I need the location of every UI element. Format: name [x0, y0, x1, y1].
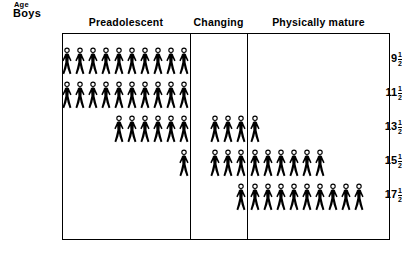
person-figure-icon: [222, 149, 234, 177]
person-figure-icon: [165, 115, 177, 143]
fraction-numerator: 1: [398, 85, 402, 93]
person-figure-icon: [314, 149, 326, 177]
pictogram-row: [63, 113, 391, 143]
pictogram-row: [63, 181, 391, 211]
person-figure-icon: [327, 183, 339, 211]
column-header-preadolescent: Preadolescent: [62, 16, 190, 28]
person-figure-icon: [235, 115, 247, 143]
person-figure-icon: [113, 115, 125, 143]
person-figure-icon: [113, 81, 125, 109]
pictogram-cell-changing: [191, 113, 248, 143]
age-value: 17: [385, 188, 397, 200]
age-value: 15: [385, 154, 397, 166]
person-figure-icon: [178, 47, 190, 75]
person-figure-icon: [249, 183, 261, 211]
person-figure-icon: [126, 81, 138, 109]
person-figure-icon: [301, 149, 313, 177]
fraction-denominator: 2: [398, 195, 402, 204]
column-header-changing: Changing: [190, 16, 247, 28]
age-fraction: 12: [398, 187, 402, 203]
age-tick-label: 912: [346, 52, 402, 66]
person-figure-icon: [165, 81, 177, 109]
pictogram-cell-changing: [191, 147, 248, 177]
age-tick-label: 1512: [346, 154, 402, 168]
person-figure-icon: [87, 81, 99, 109]
person-figure-icon: [249, 115, 261, 143]
person-figure-icon: [113, 47, 125, 75]
person-figure-icon: [152, 81, 164, 109]
age-tick-label: 1312: [346, 120, 402, 134]
person-figure-icon: [165, 47, 177, 75]
person-figure-icon: [61, 47, 73, 75]
person-figure-icon: [74, 81, 86, 109]
person-figure-icon: [152, 47, 164, 75]
age-axis-label: Age: [14, 0, 29, 9]
person-figure-icon: [74, 47, 86, 75]
column-header-label: Preadolescent: [89, 16, 163, 28]
fraction-numerator: 1: [398, 187, 402, 195]
age-value: 9: [391, 52, 397, 64]
person-figure-icon: [178, 115, 190, 143]
fraction-numerator: 1: [398, 119, 402, 127]
fraction-denominator: 2: [398, 161, 402, 170]
person-figure-icon: [126, 115, 138, 143]
person-figure-icon: [235, 183, 247, 211]
person-figure-icon: [262, 183, 274, 211]
column-header-label: Changing: [193, 16, 243, 28]
person-figure-icon: [178, 149, 190, 177]
pictogram-cell-changing: [191, 45, 248, 75]
age-fraction: 12: [398, 85, 402, 101]
fraction-denominator: 2: [398, 59, 402, 68]
column-header-label: Physically mature: [272, 16, 365, 28]
age-fraction: 12: [398, 119, 402, 135]
age-fraction: 12: [398, 51, 402, 67]
person-figure-icon: [100, 47, 112, 75]
fraction-numerator: 1: [398, 153, 402, 161]
person-figure-icon: [235, 149, 247, 177]
fraction-denominator: 2: [398, 127, 402, 136]
pictogram-row: [63, 45, 391, 75]
age-tick-label: 1712: [346, 188, 402, 202]
person-figure-icon: [275, 149, 287, 177]
age-tick-label: 1112: [346, 86, 402, 100]
pictogram-cell-preadolescent: [63, 45, 191, 75]
person-figure-icon: [314, 183, 326, 211]
pictogram-row: [63, 79, 391, 109]
person-figure-icon: [87, 47, 99, 75]
age-value: 13: [385, 120, 397, 132]
pictogram-row: [63, 147, 391, 177]
pictogram-cell-preadolescent: [63, 181, 191, 211]
pictogram-chart: Boys Age Preadolescent Changing Physical…: [0, 0, 402, 254]
person-figure-icon: [100, 81, 112, 109]
column-header-physically-mature: Physically mature: [247, 16, 390, 28]
person-figure-icon: [178, 81, 190, 109]
person-figure-icon: [222, 115, 234, 143]
person-figure-icon: [61, 81, 73, 109]
person-figure-icon: [152, 115, 164, 143]
person-figure-icon: [262, 149, 274, 177]
pictogram-cell-changing: [191, 181, 248, 211]
person-figure-icon: [139, 47, 151, 75]
fraction-numerator: 1: [398, 51, 402, 59]
person-figure-icon: [288, 149, 300, 177]
person-figure-icon: [301, 183, 313, 211]
age-fraction: 12: [398, 153, 402, 169]
person-figure-icon: [209, 115, 221, 143]
person-figure-icon: [275, 183, 287, 211]
pictogram-cell-changing: [191, 79, 248, 109]
age-value: 11: [385, 86, 397, 98]
plot-area: [62, 33, 390, 240]
person-figure-icon: [139, 115, 151, 143]
person-figure-icon: [209, 149, 221, 177]
person-figure-icon: [249, 149, 261, 177]
pictogram-cell-preadolescent: [63, 79, 191, 109]
pictogram-cell-preadolescent: [63, 113, 191, 143]
pictogram-cell-preadolescent: [63, 147, 191, 177]
person-figure-icon: [139, 81, 151, 109]
fraction-denominator: 2: [398, 93, 402, 102]
person-figure-icon: [288, 183, 300, 211]
person-figure-icon: [126, 47, 138, 75]
